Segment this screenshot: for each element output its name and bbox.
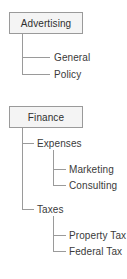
connector-finance-taxes bbox=[22, 209, 34, 210]
connector-advertising-general bbox=[22, 57, 50, 58]
connector-taxes-trunk bbox=[53, 216, 54, 251]
node-expenses[interactable]: Expenses bbox=[37, 138, 82, 149]
node-federal-tax[interactable]: Federal Tax bbox=[69, 246, 122, 257]
connector-advertising-trunk bbox=[22, 34, 23, 74]
connector-expenses-marketing bbox=[53, 169, 66, 170]
node-marketing[interactable]: Marketing bbox=[69, 164, 114, 175]
node-general[interactable]: General bbox=[54, 52, 90, 63]
node-advertising[interactable]: Advertising bbox=[9, 12, 83, 34]
node-property-tax[interactable]: Property Tax bbox=[69, 230, 126, 241]
node-policy[interactable]: Policy bbox=[54, 69, 81, 80]
connector-taxes-federal bbox=[53, 251, 66, 252]
node-consulting[interactable]: Consulting bbox=[69, 180, 117, 191]
node-finance[interactable]: Finance bbox=[9, 106, 83, 128]
connector-taxes-property bbox=[53, 235, 66, 236]
connector-expenses-consulting bbox=[53, 185, 66, 186]
connector-finance-trunk bbox=[22, 128, 23, 209]
connector-expenses-trunk bbox=[53, 150, 54, 185]
connector-advertising-policy bbox=[22, 74, 50, 75]
connector-finance-expenses bbox=[22, 143, 34, 144]
node-taxes[interactable]: Taxes bbox=[37, 204, 64, 215]
tree-diagram-canvas: Advertising General Policy Finance Expen… bbox=[0, 0, 127, 279]
